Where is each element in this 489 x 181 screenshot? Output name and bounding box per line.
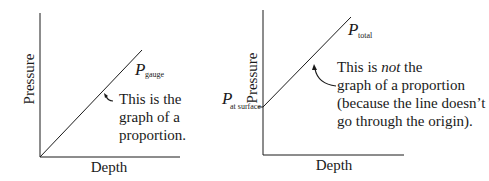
right-note-line-4: go through the origin). — [337, 113, 473, 130]
right-note-line-3: (because the line doesn’t — [337, 95, 486, 112]
intercept-label-sub: at surface — [230, 102, 261, 111]
right-note-post: the — [400, 59, 422, 75]
left-x-axis-label: Depth — [91, 159, 128, 175]
right-note-line-2: graph of a proportion — [337, 77, 465, 93]
right-curved-arrow-icon — [315, 69, 336, 86]
right-note-line-1: This is not the — [337, 59, 423, 75]
right-note-pre: This is — [337, 59, 381, 75]
right-arrowhead-icon — [312, 64, 317, 70]
right-y-axis-label: Pressure — [244, 52, 260, 103]
right-note-emphasis: not — [381, 59, 401, 75]
right-graph: Pressure Depth P total P at surface This… — [221, 10, 486, 173]
right-x-axis-label: Depth — [316, 157, 353, 173]
right-line-label-sub: total — [358, 31, 373, 40]
left-arrowhead-icon — [104, 93, 108, 98]
right-line-label-var: P — [347, 20, 358, 39]
left-line-label-sub: gauge — [145, 70, 165, 79]
left-graph: Pressure Depth P gauge This is the graph… — [21, 13, 186, 175]
left-note-line-2: graph of a — [119, 109, 180, 125]
diagram-canvas: Pressure Depth P gauge This is the graph… — [0, 0, 489, 181]
left-line-label-var: P — [134, 60, 145, 79]
left-y-axis-label: Pressure — [21, 53, 37, 104]
left-note-line-1: This is the — [119, 91, 182, 107]
left-note-line-3: proportion. — [119, 127, 186, 143]
left-curved-arrow-icon — [106, 96, 113, 101]
